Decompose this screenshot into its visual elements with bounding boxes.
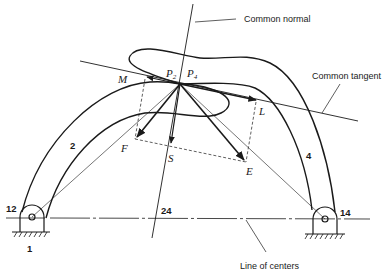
- velocity-vectors: [137, 77, 256, 160]
- radius-line-2: [32, 84, 180, 217]
- pivot-12: [12, 205, 50, 237]
- label-s: S: [168, 152, 174, 164]
- label-common-tangent: Common tangent: [312, 71, 382, 81]
- kinematics-diagram: Common normal Common tangent Line of cen…: [0, 0, 382, 272]
- radius-line-4: [180, 84, 325, 219]
- velocity-construction: [135, 79, 256, 162]
- common-tangent-leader: [322, 84, 340, 113]
- common-normal-line: [152, 4, 193, 238]
- label-e: E: [245, 165, 253, 177]
- pivot-14: [305, 207, 345, 239]
- label-pivot-12: 12: [6, 203, 17, 214]
- label-line-of-centers: Line of centers: [240, 261, 300, 271]
- label-p4: P4: [186, 67, 198, 81]
- line-of-centers: [6, 218, 370, 219]
- label-p2: P2: [165, 67, 177, 81]
- link-4: [129, 49, 335, 212]
- label-ground-1: 1: [27, 243, 33, 254]
- label-m: M: [117, 73, 128, 85]
- label-link-2: 2: [70, 140, 75, 151]
- label-link-4: 4: [306, 150, 312, 161]
- label-pivot-14: 14: [340, 207, 351, 218]
- label-center-24: 24: [161, 205, 172, 216]
- common-normal-leader: [195, 19, 236, 22]
- label-l: L: [258, 105, 265, 117]
- line-of-centers-leader: [246, 220, 266, 252]
- label-f: F: [120, 142, 128, 154]
- label-common-normal: Common normal: [244, 14, 311, 24]
- common-tangent-line: [80, 61, 358, 121]
